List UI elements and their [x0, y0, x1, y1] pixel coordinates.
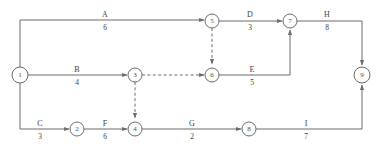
edge-B-duration: 4: [75, 78, 79, 87]
edge-H: [297, 21, 362, 65]
edge-label-G: G 2: [189, 119, 195, 141]
edge-I: [256, 85, 362, 129]
edge-C-duration: 3: [38, 132, 42, 141]
edge-G-duration: 2: [190, 132, 194, 141]
edge-H-duration: 8: [325, 23, 329, 32]
edge-C-path: [20, 83, 69, 129]
edge-B-name: B: [74, 65, 79, 74]
node-7-label: 7: [288, 17, 292, 25]
node-1-label: 1: [18, 71, 22, 79]
edge-I-duration: 7: [304, 132, 308, 141]
node-4[interactable]: 4: [128, 122, 142, 136]
edge-F-duration: 6: [103, 132, 107, 141]
edge-E-duration: 5: [250, 78, 254, 87]
node-2-label: 2: [75, 125, 79, 133]
edge-I-path: [256, 85, 362, 129]
edge-A-path: [20, 20, 204, 67]
node-5-label: 5: [210, 17, 214, 25]
node-9[interactable]: 9: [354, 67, 370, 83]
node-5[interactable]: 5: [205, 14, 219, 28]
edge-E-name: E: [250, 65, 255, 74]
network-diagram-canvas: A 6 B 4 C 3 D 3 E 5 F 6 G 2 H 8: [0, 0, 380, 150]
edge-D-duration: 3: [248, 23, 252, 32]
node-4-label: 4: [133, 125, 137, 133]
edge-label-B: B 4: [74, 65, 79, 87]
edge-E: [219, 30, 290, 75]
node-9-label: 9: [360, 71, 364, 79]
edge-A-duration: 6: [103, 23, 107, 32]
edge-D-name: D: [247, 10, 253, 19]
edge-label-C: C 3: [37, 119, 42, 141]
node-8-label: 8: [247, 125, 251, 133]
edge-H-name: H: [324, 10, 330, 19]
edge-label-A: A 6: [102, 10, 108, 32]
edge-A-name: A: [102, 10, 108, 19]
edge-H-path: [297, 21, 362, 65]
edge-E-path: [219, 30, 290, 75]
edge-C-name: C: [37, 119, 42, 128]
node-8[interactable]: 8: [242, 122, 256, 136]
edge-C: [20, 83, 69, 129]
node-7[interactable]: 7: [283, 14, 297, 28]
node-3-label: 3: [133, 71, 137, 79]
edge-G-name: G: [189, 119, 195, 128]
edge-label-E: E 5: [250, 65, 255, 87]
edge-F-name: F: [103, 119, 108, 128]
edge-I-name: I: [305, 119, 308, 128]
edge-label-F: F 6: [103, 119, 108, 141]
node-6[interactable]: 6: [205, 68, 219, 82]
edge-A: [20, 20, 204, 67]
node-2[interactable]: 2: [70, 122, 84, 136]
network-diagram-svg: A 6 B 4 C 3 D 3 E 5 F 6 G 2 H 8: [0, 0, 380, 150]
node-6-label: 6: [210, 71, 214, 79]
node-1[interactable]: 1: [12, 67, 28, 83]
edge-label-I: I 7: [304, 119, 308, 141]
node-3[interactable]: 3: [128, 68, 142, 82]
